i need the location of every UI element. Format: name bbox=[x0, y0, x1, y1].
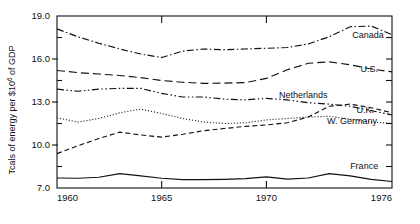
series-label-france: France bbox=[350, 161, 378, 171]
series-inline-labels: CanadaU.S.NetherlandsU.K.W. GermanyFranc… bbox=[279, 30, 384, 170]
y-tick-label: 13.0 bbox=[32, 96, 51, 107]
energy-intensity-line-chart: Tcals of energy per $106 of GDP 19.016.0… bbox=[0, 0, 420, 224]
chart-container: Tcals of energy per $106 of GDP 19.016.0… bbox=[0, 0, 420, 224]
data-series-lines bbox=[57, 26, 392, 182]
plot-frame bbox=[57, 16, 392, 188]
y-tick-label: 7.0 bbox=[37, 182, 50, 193]
x-tick-label: 1960 bbox=[57, 192, 78, 203]
y-tick-label: 16.0 bbox=[32, 53, 51, 64]
series-label-netherlands: Netherlands bbox=[279, 90, 328, 100]
series-line-canada bbox=[57, 26, 392, 58]
series-line-u-s bbox=[57, 62, 392, 84]
y-axis-title: Tcals of energy per $106 of GDP bbox=[6, 45, 17, 174]
series-line-france bbox=[57, 174, 392, 182]
x-axis-tick-labels: 1960196519701976 bbox=[57, 192, 392, 203]
series-label-u-k: U.K. bbox=[356, 105, 374, 115]
x-tick-label: 1976 bbox=[371, 192, 392, 203]
x-tick-label: 1965 bbox=[151, 192, 172, 203]
y-tick-label: 19.0 bbox=[32, 10, 51, 21]
y-tick-label: 10.0 bbox=[32, 139, 51, 150]
y-axis-tick-labels: 19.016.013.010.07.0 bbox=[32, 10, 51, 193]
axis-ticks bbox=[52, 16, 392, 188]
x-tick-label: 1970 bbox=[256, 192, 277, 203]
series-label-u-s: U.S. bbox=[361, 64, 379, 74]
y-axis-title-group: Tcals of energy per $106 of GDP bbox=[6, 45, 17, 174]
series-line-u-k bbox=[57, 88, 392, 115]
series-label-canada: Canada bbox=[352, 30, 384, 40]
series-line-netherlands bbox=[57, 104, 392, 153]
series-label-w-germany: W. Germany bbox=[327, 116, 378, 126]
